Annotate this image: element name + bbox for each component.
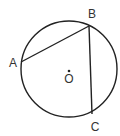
- circle: [21, 21, 117, 117]
- label-c: C: [91, 120, 100, 134]
- geometry-diagram: A B C O: [0, 0, 120, 136]
- chord-bc: [89, 26, 92, 114]
- chord-ab: [21, 26, 89, 62]
- label-o: O: [64, 72, 73, 86]
- label-b: B: [88, 7, 96, 21]
- label-a: A: [9, 56, 17, 70]
